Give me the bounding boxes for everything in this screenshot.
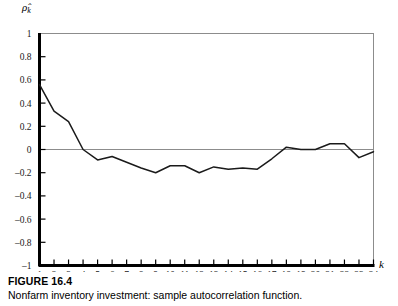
y-tick-label: –0.6 — [14, 215, 32, 225]
x-tick-label: 11 — [180, 270, 189, 272]
y-tick-label: 0.6 — [20, 75, 32, 85]
x-tick-label: 12 — [194, 270, 204, 272]
x-tick-label: 17 — [267, 270, 277, 272]
figure-caption-block: FIGURE 16.4 Nonfarm inventory investment… — [8, 275, 394, 303]
x-tick-label: 13 — [209, 270, 219, 272]
y-tick-label: 0 — [27, 145, 32, 155]
y-tick-label: 0.4 — [20, 99, 32, 109]
chart-plot-area: 10.80.60.40.20–0.2–0.4–0.6–0.8–112345678… — [0, 0, 398, 272]
x-tick-label: 20 — [311, 270, 321, 272]
x-tick-label: 18 — [282, 270, 292, 272]
x-tick-label: 5 — [95, 270, 100, 272]
y-tick-label: 1 — [27, 29, 32, 39]
y-tick-label: 0.8 — [20, 52, 32, 62]
x-tick-label: 15 — [238, 270, 248, 272]
x-tick-label: 22 — [340, 270, 350, 272]
y-tick-label: –0.4 — [14, 191, 32, 201]
figure-number: FIGURE 16.4 — [8, 275, 394, 288]
x-tick-label: 16 — [253, 270, 263, 272]
y-tick-label: –0.2 — [14, 168, 32, 178]
x-tick-label: 8 — [139, 270, 144, 272]
y-tick-label: –1 — [21, 261, 32, 271]
x-tick-label: 9 — [153, 270, 158, 272]
x-axis-label: k — [379, 258, 384, 270]
x-tick-label: 3 — [66, 270, 71, 272]
x-tick-label: 10 — [165, 270, 175, 272]
figure-caption-text: Nonfarm inventory investment: sample aut… — [8, 289, 394, 303]
x-tick-label: 21 — [325, 270, 335, 272]
x-tick-label: 1 — [37, 270, 42, 272]
x-tick-label: 7 — [124, 270, 129, 272]
x-tick-label: 14 — [224, 270, 234, 272]
x-tick-label: 19 — [296, 270, 306, 272]
y-axis-label-subscript: k — [27, 6, 31, 15]
x-tick-label: 2 — [52, 270, 57, 272]
autocorrelation-chart: 10.80.60.40.20–0.2–0.4–0.6–0.8–112345678… — [0, 0, 398, 272]
x-tick-label: 6 — [110, 270, 115, 272]
y-tick-label: –0.8 — [14, 238, 32, 248]
figure-container: 10.80.60.40.20–0.2–0.4–0.6–0.8–112345678… — [0, 0, 398, 306]
y-axis-label: ρ̂k — [22, 2, 31, 15]
y-tick-label: 0.2 — [20, 122, 32, 132]
x-tick-label: 24 — [369, 270, 379, 272]
x-tick-label: 23 — [354, 270, 364, 272]
x-tick-label: 4 — [81, 270, 86, 272]
